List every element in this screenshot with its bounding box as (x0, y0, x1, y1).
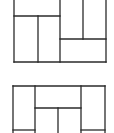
top-figure (14, 0, 106, 62)
bottom-figure (13, 86, 105, 133)
tiling-diagram (0, 0, 114, 133)
